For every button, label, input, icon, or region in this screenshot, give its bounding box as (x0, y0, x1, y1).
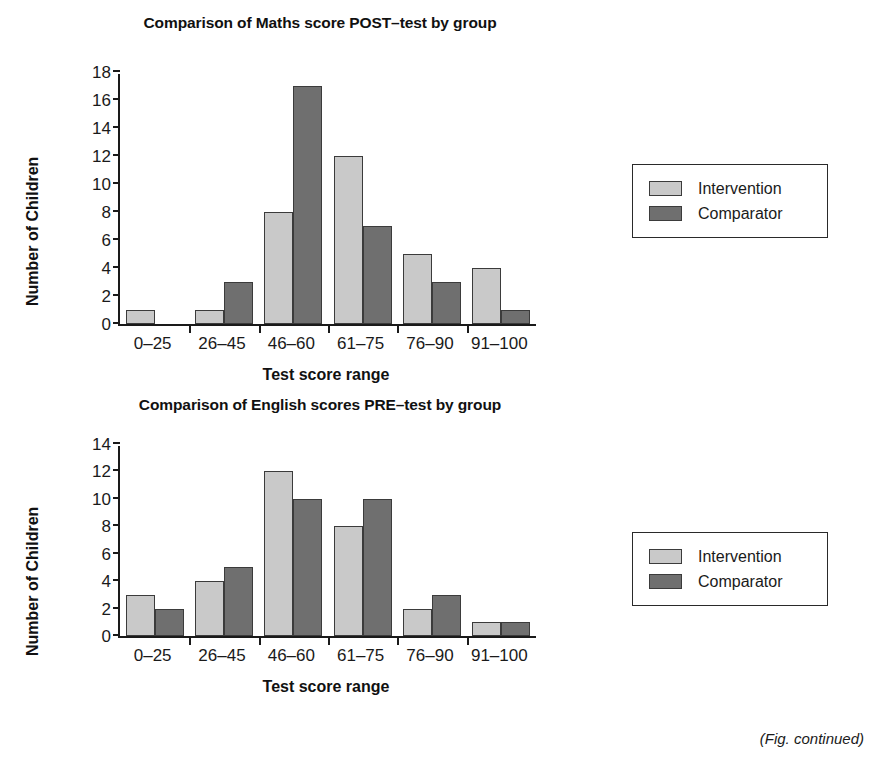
x-axis-tick-labels: 0–2526–4546–6061–7576–9091–100 (118, 646, 534, 666)
legend-label: Intervention (698, 548, 782, 566)
y-axis-tick-label: 2 (102, 600, 120, 617)
bar-comparator-26–45 (224, 567, 253, 636)
bar-group (328, 446, 397, 636)
y-axis-tick-label: 14 (92, 120, 120, 137)
y-axis-tick-mark (113, 182, 120, 184)
bar-intervention-91–100 (472, 622, 501, 636)
bar-comparator-61–75 (363, 226, 392, 324)
bar-comparator-26–45 (224, 282, 253, 324)
legend-item: Comparator (649, 569, 801, 594)
y-axis-tick-mark (113, 210, 120, 212)
x-axis-tick-label: 76–90 (395, 646, 464, 666)
x-axis-tick-label: 91–100 (465, 334, 534, 354)
bar-intervention-91–100 (472, 268, 501, 324)
bar-comparator-46–60 (293, 86, 322, 324)
bar-comparator-76–90 (432, 595, 461, 636)
x-axis-tick-mark (467, 636, 469, 645)
y-axis-tick-label: 12 (92, 463, 120, 480)
x-axis-tick-mark (259, 324, 261, 333)
bar-group (259, 446, 328, 636)
y-axis-tick-label: 0 (102, 316, 120, 333)
bar-group (120, 446, 189, 636)
y-axis-tick-label: 4 (102, 573, 120, 590)
bar-intervention-0–25 (126, 310, 155, 324)
x-axis-tick-mark (328, 636, 330, 645)
y-axis-tick-mark (113, 126, 120, 128)
y-axis-tick-mark (113, 70, 120, 72)
legend-swatch-icon (649, 181, 682, 196)
y-axis-tick-label: 14 (92, 436, 120, 453)
bar-group (467, 74, 536, 324)
bar-comparator-61–75 (363, 499, 392, 636)
bar-intervention-26–45 (195, 310, 224, 324)
y-axis-tick-mark (113, 238, 120, 240)
bar-group (467, 446, 536, 636)
bar-intervention-0–25 (126, 595, 155, 636)
figure: Comparison of Maths score POST–test by g… (0, 0, 886, 769)
y-axis-tick-mark (113, 154, 120, 156)
x-axis-label: Test score range (118, 678, 534, 696)
figure-continued-note: (Fig. continued) (760, 730, 864, 747)
bar-intervention-76–90 (403, 609, 432, 636)
legend: InterventionComparator (632, 532, 828, 606)
x-axis-tick-label: 46–60 (257, 334, 326, 354)
y-axis-tick-label: 18 (92, 64, 120, 81)
legend-swatch-icon (649, 574, 682, 589)
x-axis-tick-mark (189, 324, 191, 333)
x-axis-tick-label: 26–45 (187, 646, 256, 666)
y-axis-tick-mark (113, 497, 120, 499)
bar-comparator-91–100 (501, 622, 530, 636)
y-axis-tick-mark (113, 524, 120, 526)
x-axis-tick-label: 26–45 (187, 334, 256, 354)
x-axis-tick-mark (189, 636, 191, 645)
x-axis-label: Test score range (118, 366, 534, 384)
bar-group (120, 74, 189, 324)
bar-intervention-76–90 (403, 254, 432, 324)
x-axis-tick-label: 61–75 (326, 646, 395, 666)
bar-group (328, 74, 397, 324)
y-axis-tick-label: 0 (102, 628, 120, 645)
legend-label: Comparator (698, 205, 782, 223)
plot-area: 02468101214 (118, 446, 536, 638)
y-axis-label: Number of Children (24, 507, 42, 656)
y-axis-tick-mark (113, 607, 120, 609)
y-axis-tick-mark (113, 322, 120, 324)
bar-group (259, 74, 328, 324)
y-axis-tick-label: 6 (102, 232, 120, 249)
bar-group (397, 446, 466, 636)
legend-item: Intervention (649, 176, 801, 201)
x-axis-tick-mark (397, 324, 399, 333)
legend-label: Comparator (698, 573, 782, 591)
bar-group (189, 446, 258, 636)
legend-item: Comparator (649, 201, 801, 226)
chart-english-pre-test: Comparison of English scores PRE–test by… (0, 396, 886, 726)
x-axis-tick-mark (328, 324, 330, 333)
bar-intervention-46–60 (264, 471, 293, 636)
x-axis-tick-label: 91–100 (465, 646, 534, 666)
y-axis-tick-label: 10 (92, 490, 120, 507)
bar-comparator-46–60 (293, 499, 322, 636)
bar-intervention-26–45 (195, 581, 224, 636)
bar-intervention-61–75 (334, 526, 363, 636)
chart-maths-post-test: Comparison of Maths score POST–test by g… (0, 14, 886, 384)
legend-swatch-icon (649, 206, 682, 221)
y-axis-tick-mark (113, 552, 120, 554)
bar-groups (120, 74, 536, 324)
y-axis-tick-label: 8 (102, 518, 120, 535)
y-axis-tick-mark (113, 294, 120, 296)
y-axis-tick-mark (113, 98, 120, 100)
x-axis-tick-mark (259, 636, 261, 645)
y-axis-tick-label: 12 (92, 148, 120, 165)
legend-swatch-icon (649, 549, 682, 564)
x-axis-tick-labels: 0–2526–4546–6061–7576–9091–100 (118, 334, 534, 354)
y-axis-tick-mark (113, 266, 120, 268)
chart-title: Comparison of Maths score POST–test by g… (60, 14, 580, 32)
y-axis-tick-label: 8 (102, 204, 120, 221)
y-axis-tick-label: 16 (92, 92, 120, 109)
y-axis-tick-mark (113, 469, 120, 471)
x-axis-tick-label: 76–90 (395, 334, 464, 354)
bar-group (189, 74, 258, 324)
legend-item: Intervention (649, 544, 801, 569)
bar-groups (120, 446, 536, 636)
y-axis-tick-mark (113, 442, 120, 444)
